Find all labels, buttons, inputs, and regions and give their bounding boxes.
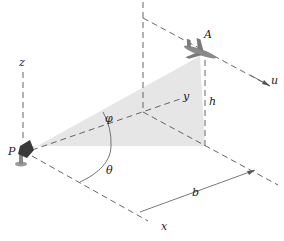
- distance-b-label: b: [192, 186, 199, 199]
- aircraft-a-label: A: [203, 28, 212, 41]
- x-axis-label: x: [161, 220, 168, 233]
- radar-tracking-diagram: z y x u P A h b φ θ: [0, 0, 284, 241]
- y-axis-label: y: [182, 90, 190, 103]
- radar-antenna-icon: [15, 140, 34, 167]
- phi-angle-label: φ: [105, 112, 113, 125]
- point-p-label: P: [7, 145, 16, 158]
- u-arrowhead-icon: [262, 80, 270, 86]
- ground-track-line: [143, 112, 278, 185]
- b-arrowhead-icon: [247, 170, 255, 175]
- theta-angle-label: θ: [106, 164, 113, 177]
- x-axis: [32, 156, 148, 221]
- shaded-elevation-plane: [30, 56, 205, 150]
- height-h-label: h: [209, 95, 216, 108]
- z-axis-label: z: [18, 56, 25, 69]
- u-label: u: [271, 74, 278, 87]
